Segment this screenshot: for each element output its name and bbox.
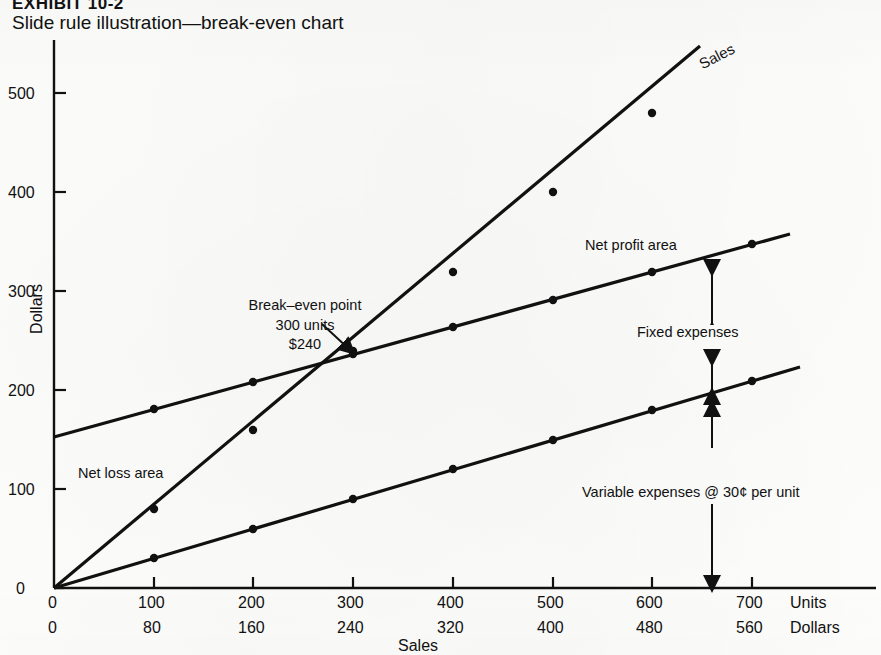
x-dollars-tick-480: 480 [636,620,663,636]
x-units-tick-200: 200 [238,595,265,611]
x-axis-title: Sales [398,638,438,654]
y-tick-label-500: 500 [8,86,35,102]
x-dollars-tick-0: 0 [48,620,57,636]
y-tick-label-200: 200 [8,383,35,399]
x-units-tick-300: 300 [337,595,364,611]
x-units-tick-700: 700 [736,595,763,611]
x-axis-row-name-dollars: Dollars [790,620,840,636]
variable-expenses-markers [150,377,756,562]
x-units-tick-400: 400 [437,595,464,611]
x-dollars-tick-240: 240 [337,620,364,636]
sales-line-markers [150,109,656,513]
y-axis-ticks [54,93,66,588]
variable-expenses-line [54,367,800,588]
x-units-tick-500: 500 [537,595,564,611]
x-dollars-tick-400: 400 [537,620,564,636]
y-tick-label-400: 400 [8,185,35,201]
net-loss-area-label: Net loss area [78,466,163,481]
net-profit-area-label: Net profit area [585,238,677,253]
exhibit-page: EXHIBIT 10-2 Slide rule illustration—bre… [0,0,881,655]
x-dollars-tick-160: 160 [238,620,265,636]
variable-expenses-label: Variable expenses @ 30¢ per unit [578,485,804,500]
x-units-tick-600: 600 [636,595,663,611]
y-tick-label-0: 0 [16,581,25,597]
break-even-line-2: 300 units [240,316,370,336]
break-even-annotation: Break–even point 300 units $240 [240,296,370,355]
x-dollars-tick-320: 320 [437,620,464,636]
y-tick-label-100: 100 [8,482,35,498]
y-tick-label-300: 300 [8,284,35,300]
break-even-line-3: $240 [240,335,370,355]
break-even-chart [0,0,881,655]
x-axis-row-name-units: Units [790,595,826,611]
x-dollars-tick-560: 560 [736,620,763,636]
x-units-tick-100: 100 [138,595,165,611]
break-even-line-1: Break–even point [240,296,370,316]
x-units-tick-0: 0 [48,595,57,611]
x-dollars-tick-80: 80 [143,620,161,636]
y-axis-title: Dollars [28,264,46,354]
fixed-expenses-label: Fixed expenses [633,325,743,340]
x-axis-ticks [154,577,752,588]
